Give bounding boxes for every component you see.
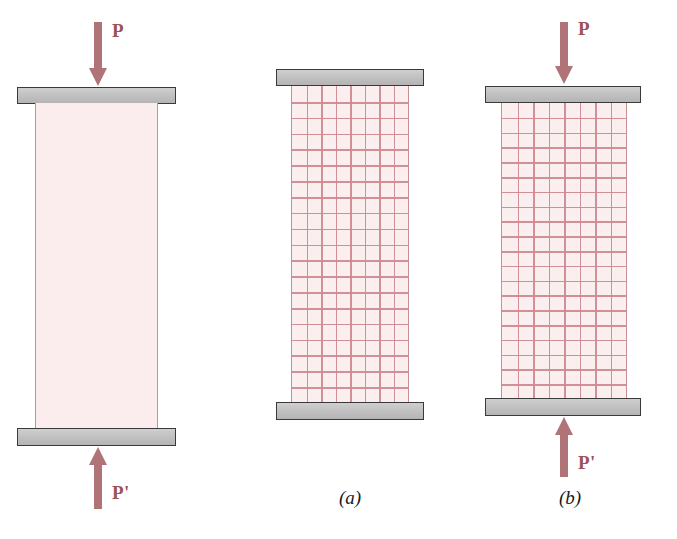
grid-line-horizontal xyxy=(502,207,626,209)
grid-line-horizontal xyxy=(502,325,626,327)
compression-figure: P P' (a) P xyxy=(0,0,677,539)
arrow-shaft xyxy=(560,433,568,477)
bottom-platen-b xyxy=(485,398,641,416)
grid-line-horizontal xyxy=(502,147,626,149)
panel-deformed-grid-specimen: P P' (b) xyxy=(0,0,677,539)
specimen-body-b xyxy=(501,103,627,399)
grid-line-horizontal xyxy=(502,281,626,283)
grid-line-horizontal xyxy=(502,310,626,312)
grid-line-horizontal xyxy=(502,295,626,297)
grid-line-horizontal xyxy=(502,251,626,253)
grid-line-horizontal xyxy=(502,340,626,342)
grid-line-horizontal xyxy=(502,192,626,194)
arrow-head-down-icon xyxy=(555,66,573,84)
top-platen-b xyxy=(485,86,641,103)
specimen-grid-b xyxy=(502,103,626,399)
grid-line-horizontal xyxy=(502,236,626,238)
grid-line-horizontal xyxy=(502,384,626,386)
grid-line-horizontal xyxy=(502,133,626,135)
load-arrow-bottom-b xyxy=(554,417,574,479)
arrow-shaft xyxy=(560,22,568,70)
load-label-p-prime-b: P' xyxy=(578,452,596,474)
caption-b: (b) xyxy=(540,487,600,509)
grid-line-horizontal xyxy=(502,369,626,371)
grid-line-horizontal xyxy=(502,355,626,357)
load-label-p-b: P xyxy=(578,18,590,40)
load-arrow-top-b xyxy=(554,22,574,88)
grid-line-horizontal xyxy=(502,118,626,120)
grid-line-horizontal xyxy=(502,177,626,179)
grid-line-horizontal xyxy=(502,221,626,223)
grid-line-horizontal xyxy=(502,162,626,164)
grid-line-horizontal xyxy=(502,266,626,268)
